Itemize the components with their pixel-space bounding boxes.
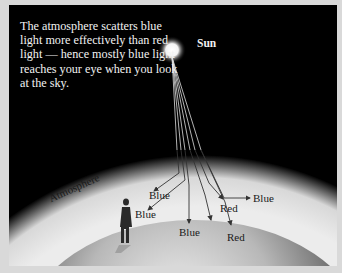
caption-text: The atmosphere scatters blue light more … [20,19,180,90]
ray-label-blue-bottom: Blue [179,226,200,238]
ray-label-red-lower: Red [227,231,245,243]
sun-label: Sun [197,37,216,49]
ray-label-blue-upper-left: Blue [149,189,170,201]
ray-label-blue-lower-left: Blue [135,208,156,220]
ray-label-red-upper: Red [220,202,238,214]
diagram-frame: The atmosphere scatters blue light more … [9,5,337,266]
ray-label-blue-right: Blue [253,192,274,204]
